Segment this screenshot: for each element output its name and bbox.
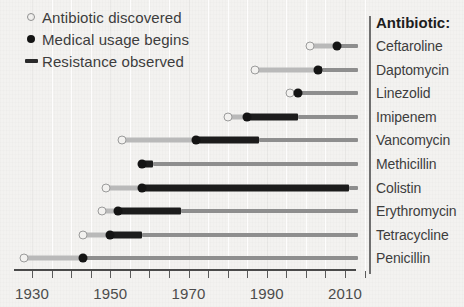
x-tick [208, 271, 209, 278]
usage-segment [153, 162, 358, 166]
legend-label: Medical usage begins [42, 31, 189, 48]
antibiotic-label: Colistin [376, 180, 421, 196]
legend-swatch [20, 35, 42, 43]
antibiotic-label: Linezolid [376, 85, 430, 101]
timeline-row [0, 158, 369, 170]
legend: Antibiotic discoveredMedical usage begin… [20, 6, 250, 72]
x-tick [286, 271, 287, 278]
antibiotic-label: Daptomycin [376, 62, 449, 78]
x-tick [267, 271, 268, 278]
x-tick-label: 1930 [15, 285, 49, 302]
discovered-segment [255, 67, 318, 72]
resistance-segment [110, 231, 141, 238]
x-tick [228, 271, 229, 278]
antibiotic-label: Vancomycin [376, 132, 450, 148]
timeline-row [0, 229, 369, 241]
x-tick [91, 271, 92, 278]
x-tick [365, 271, 366, 278]
resistance-segment [118, 208, 181, 215]
x-tick [169, 271, 170, 278]
usage-segment [322, 68, 358, 72]
x-tick-label: 1950 [93, 285, 127, 302]
legend-item: Medical usage begins [20, 28, 250, 50]
discovered-segment [24, 256, 83, 261]
discovered-marker-icon [78, 230, 87, 239]
usage-marker-icon [78, 254, 87, 263]
usage-segment [298, 115, 358, 119]
antibiotic-label: Penicillin [376, 250, 430, 266]
resistance-segment [247, 113, 298, 120]
usage-segment [181, 209, 358, 213]
usage-marker-icon [137, 183, 146, 192]
x-tick-label: 1970 [171, 285, 205, 302]
open-circle-icon [27, 13, 35, 21]
timeline-row [0, 134, 369, 146]
discovered-marker-icon [223, 112, 232, 121]
legend-swatch [20, 59, 42, 63]
discovered-marker-icon [102, 183, 111, 192]
usage-marker-icon [114, 207, 123, 216]
panel-header: Antibiotic: [376, 14, 450, 31]
usage-marker-icon [313, 65, 322, 74]
legend-label: Antibiotic discovered [42, 9, 182, 26]
timeline-row [0, 252, 369, 264]
x-tick [189, 271, 190, 278]
usage-segment [142, 233, 358, 237]
usage-marker-icon [106, 230, 115, 239]
discovered-marker-icon [20, 254, 29, 263]
x-tick [130, 271, 131, 278]
usage-marker-icon [294, 89, 303, 98]
legend-label: Resistance observed [42, 53, 184, 70]
usage-marker-icon [243, 112, 252, 121]
x-tick-label: 2010 [328, 285, 362, 302]
timeline-row [0, 182, 369, 194]
antibiotic-label: Imipenem [376, 109, 437, 125]
legend-item: Resistance observed [20, 50, 250, 72]
x-tick [325, 271, 326, 278]
thick-bar-icon [25, 59, 38, 63]
chart-page: 19301950197019902010 Year Antibiotic dis… [0, 0, 464, 307]
legend-item: Antibiotic discovered [20, 6, 250, 28]
x-tick [345, 271, 346, 278]
resistance-segment [142, 184, 349, 191]
discovered-segment [122, 138, 196, 143]
usage-segment [349, 186, 358, 190]
panel-divider [369, 16, 371, 274]
x-tick [306, 271, 307, 278]
antibiotic-label: Ceftaroline [376, 38, 443, 54]
usage-marker-icon [137, 160, 146, 169]
discovered-marker-icon [251, 65, 260, 74]
x-tick [52, 271, 53, 278]
x-tick [71, 271, 72, 278]
resistance-segment [196, 137, 259, 144]
x-tick [247, 271, 248, 278]
legend-swatch [20, 13, 42, 21]
usage-segment [83, 256, 358, 260]
usage-segment [298, 91, 358, 95]
discovered-marker-icon [117, 136, 126, 145]
timeline-row [0, 205, 369, 217]
x-axis-line [14, 269, 356, 271]
x-tick [149, 271, 150, 278]
antibiotic-label: Methicillin [376, 156, 436, 172]
antibiotic-label: Erythromycin [376, 203, 456, 219]
usage-marker-icon [192, 136, 201, 145]
filled-circle-icon [27, 35, 35, 43]
usage-segment [259, 138, 358, 142]
usage-marker-icon [333, 42, 342, 51]
x-tick [32, 271, 33, 278]
antibiotic-label: Tetracycline [376, 227, 449, 243]
antibiotic-label-panel: Antibiotic: CeftarolineDaptomycinLinezol… [376, 0, 464, 307]
timeline-row [0, 87, 369, 99]
discovered-marker-icon [305, 42, 314, 51]
discovered-marker-icon [98, 207, 107, 216]
x-tick-label: 1990 [250, 285, 284, 302]
x-tick [110, 271, 111, 278]
timeline-row [0, 111, 369, 123]
